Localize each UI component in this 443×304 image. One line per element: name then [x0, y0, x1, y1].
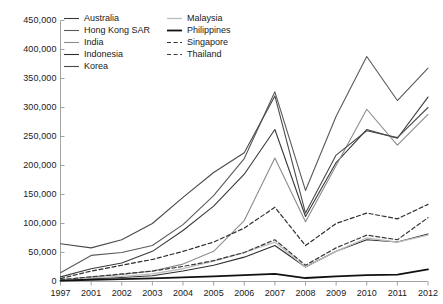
- legend-label: Australia: [84, 14, 119, 23]
- legend-line-swatch-icon: [64, 38, 79, 47]
- y-tick-label: 200,000: [23, 160, 56, 170]
- legend-label: Philippines: [187, 26, 231, 35]
- x-tick-label: 2001: [75, 288, 107, 298]
- series-line-india: [61, 109, 429, 280]
- y-tick-label: 350,000: [23, 73, 56, 83]
- legend-label: Hong Kong SAR: [84, 26, 150, 35]
- x-tick-label: 1997: [45, 288, 77, 298]
- legend-label: Indonesia: [84, 50, 123, 59]
- series-line-australia: [61, 97, 429, 277]
- x-tick-label: 2006: [228, 288, 260, 298]
- x-tick-label: 2004: [167, 288, 199, 298]
- legend-item-thailand: Thailand: [167, 48, 231, 60]
- legend-item-korea: Korea: [64, 60, 150, 72]
- x-tick-label: 2005: [198, 288, 230, 298]
- chart-legend: AustraliaHong Kong SARIndiaIndonesiaKore…: [64, 12, 260, 72]
- legend-line-swatch-icon: [167, 26, 182, 35]
- y-tick-label: 300,000: [23, 102, 56, 112]
- legend-item-australia: Australia: [64, 12, 150, 24]
- legend-label: Thailand: [187, 50, 222, 59]
- legend-item-malaysia: Malaysia: [167, 12, 231, 24]
- y-tick-label: 100,000: [23, 218, 56, 228]
- x-tick-label: 2002: [106, 288, 138, 298]
- x-tick-label: 2009: [320, 288, 352, 298]
- x-tick-label: 2012: [412, 288, 443, 298]
- legend-column-right: MalaysiaPhilippinesSingaporeThailand: [167, 12, 231, 60]
- x-tick-label: 2008: [290, 288, 322, 298]
- legend-line-swatch-icon: [167, 38, 182, 47]
- legend-line-swatch-icon: [167, 14, 182, 23]
- legend-item-singapore: Singapore: [167, 36, 231, 48]
- legend-line-swatch-icon: [64, 50, 79, 59]
- legend-item-indonesia: Indonesia: [64, 48, 150, 60]
- y-tick-label: 450,000: [23, 15, 56, 25]
- legend-line-swatch-icon: [64, 14, 79, 23]
- legend-label: Malaysia: [187, 14, 223, 23]
- series-line-korea: [61, 96, 429, 248]
- legend-item-philippines: Philippines: [167, 24, 231, 36]
- y-tick-label: 150,000: [23, 189, 56, 199]
- legend-item-india: India: [64, 36, 150, 48]
- legend-label: Singapore: [187, 38, 228, 47]
- y-tick-label: 50,000: [28, 247, 56, 257]
- y-tick-label: 400,000: [23, 44, 56, 54]
- x-tick-label: 2003: [136, 288, 168, 298]
- legend-column-left: AustraliaHong Kong SARIndiaIndonesiaKore…: [64, 12, 150, 72]
- legend-label: India: [84, 38, 104, 47]
- legend-line-swatch-icon: [64, 26, 79, 35]
- legend-line-swatch-icon: [167, 50, 182, 59]
- y-tick-label: 0: [51, 276, 56, 286]
- series-lines: [61, 56, 429, 280]
- x-tick-label: 2010: [351, 288, 383, 298]
- legend-item-hong-kong-sar: Hong Kong SAR: [64, 24, 150, 36]
- x-tick-label: 2007: [259, 288, 291, 298]
- legend-line-swatch-icon: [64, 62, 79, 71]
- x-tick-label: 2011: [381, 288, 413, 298]
- legend-label: Korea: [84, 62, 108, 71]
- series-line-thailand: [61, 218, 429, 280]
- y-tick-label: 250,000: [23, 131, 56, 141]
